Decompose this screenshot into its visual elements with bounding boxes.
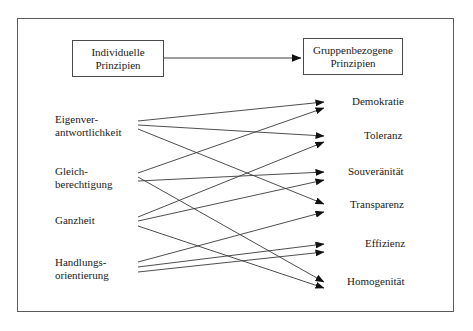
edge-handlungsorientierung-to-transparenz <box>138 212 324 262</box>
edge-ganzheit-to-souveraenitaet <box>138 180 324 221</box>
left-label-eigenverantwortlichkeit-line1: Eigenver- <box>55 113 122 126</box>
right-label-souveraenitaet: Souveränität <box>348 165 404 178</box>
box-group-line2: Prinzipien <box>330 57 375 70</box>
box-individual-line2: Prinzipien <box>95 59 140 72</box>
left-label-handlungsorientierung: Handlungs-orientierung <box>55 256 109 283</box>
left-label-handlungsorientierung-line1: Handlungs- <box>55 256 109 269</box>
right-label-demokratie: Demokratie <box>352 95 404 108</box>
left-label-eigenverantwortlichkeit: Eigenver-antwortlichkeit <box>55 113 122 140</box>
right-label-transparenz: Transparenz <box>350 198 404 211</box>
box-group-line1: Gruppenbezogene <box>313 44 393 57</box>
box-individual-line1: Individuelle <box>91 46 144 59</box>
edge-handlungsorientierung-to-effizienz <box>138 244 324 267</box>
node-individuelle-prinzipien: Individuelle Prinzipien <box>72 40 164 77</box>
edge-handlungsorientierung-to-effizienz2 <box>138 252 324 272</box>
left-label-gleichberechtigung-line1: Gleich- <box>55 165 112 178</box>
left-label-eigenverantwortlichkeit-line2: antwortlichkeit <box>55 126 122 139</box>
node-gruppenbezogene-prinzipien: Gruppenbezogene Prinzipien <box>303 38 403 75</box>
left-label-handlungsorientierung-line2: orientierung <box>55 269 109 282</box>
right-label-homogenitaet: Homogenität <box>347 275 404 288</box>
right-label-effizienz: Effizienz <box>365 237 405 250</box>
left-label-gleichberechtigung: Gleich-berechtigung <box>55 165 112 192</box>
left-label-ganzheit: Ganzheit <box>55 214 95 227</box>
diagram-canvas: Individuelle Prinzipien Gruppenbezogene … <box>0 0 473 331</box>
left-label-gleichberechtigung-line2: berechtigung <box>55 178 112 191</box>
left-label-ganzheit-line1: Ganzheit <box>55 214 95 227</box>
edge-eigenverantwortlichkeit-to-toleranz <box>138 125 324 136</box>
edge-ganzheit-to-homogenitaet <box>138 226 324 288</box>
right-label-toleranz: Toleranz <box>364 129 402 142</box>
principle-edges <box>138 102 324 288</box>
